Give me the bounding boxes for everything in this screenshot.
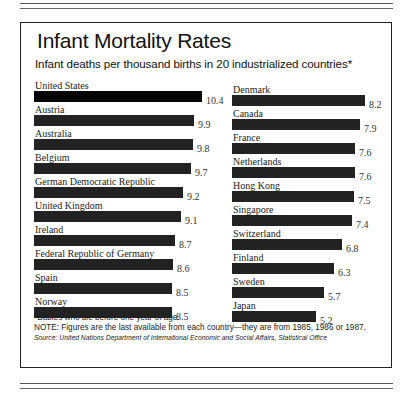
value-label: 8.6 [177,263,190,274]
value-label: 9.9 [198,119,211,130]
country-label: Singapore [233,204,274,215]
top-double-rule [20,3,393,9]
country-label: United Kingdom [35,200,103,211]
value-label: 9.7 [195,167,208,178]
bar [232,287,324,298]
value-label: 7.6 [359,147,372,158]
bar [34,163,191,174]
value-label: 8.7 [179,239,192,250]
footnote: *Babies who die before one year of age. [34,313,366,323]
country-label: Sweden [233,276,265,287]
country-label: Belgium [35,152,69,163]
bar [34,187,183,198]
bar [232,95,365,106]
bar [232,167,355,178]
value-label: 7.9 [364,123,377,134]
bar [34,91,202,102]
note-text: NOTE: Figures are the last available fro… [34,323,366,333]
bar [232,215,352,226]
chart-title: Infant Mortality Rates [37,29,231,53]
bar [232,191,354,202]
value-label: 8.5 [176,287,189,298]
notes: *Babies who die before one year of age. … [34,313,366,343]
country-label: Netherlands [233,156,281,167]
country-label: Spain [35,272,58,283]
bar [232,263,334,274]
country-label: Austria [35,104,64,115]
value-label: 10.4 [206,95,224,106]
chart-frame: Infant Mortality Rates Infant deaths per… [20,22,392,368]
country-label: Australia [35,128,72,139]
value-label: 8.2 [369,99,382,110]
country-label: Finland [233,252,264,263]
bar [34,283,172,294]
country-label: United States [35,80,89,91]
country-label: Canada [233,108,263,119]
bar [34,139,193,150]
country-label: Federal Republic of Germany [35,248,154,259]
country-label: Hong Kong [233,180,280,191]
country-label: Denmark [233,84,270,95]
value-label: 6.8 [346,243,359,254]
country-label: Switzerland [233,228,281,239]
value-label: 7.5 [358,195,371,206]
chart-subtitle: Infant deaths per thousand births in 20 … [35,57,352,70]
value-label: 7.4 [356,219,369,230]
country-label: Japan [233,300,256,311]
country-label: German Democratic Republic [35,176,155,187]
value-label: 9.8 [197,143,210,154]
source-text: Source: United Nations Department of Int… [34,333,366,343]
bar [232,143,355,154]
bar [34,211,181,222]
bar [34,235,175,246]
value-label: 7.6 [359,171,372,182]
bottom-double-rule [20,383,393,389]
bar [34,115,194,126]
bar [232,119,360,130]
value-label: 9.1 [185,215,198,226]
bar [34,259,173,270]
value-label: 9.2 [187,191,200,202]
country-label: Norway [35,296,67,307]
country-label: Ireland [35,224,63,235]
country-label: France [233,132,260,143]
value-label: 6.3 [338,267,351,278]
bar [232,239,342,250]
value-label: 5.7 [328,291,341,302]
